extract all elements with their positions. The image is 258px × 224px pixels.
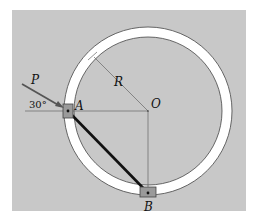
force-label: P [30,73,40,87]
point-b-label: B [143,200,153,214]
center-label: O [151,97,161,111]
pin-b [147,192,150,195]
pin-a [67,110,70,113]
radius-label: R [113,75,123,89]
angle-label: 30° [29,99,47,110]
center-point [147,110,149,112]
diagram-canvas: P 30° A O R B [0,0,258,224]
point-a-label: A [74,99,84,113]
